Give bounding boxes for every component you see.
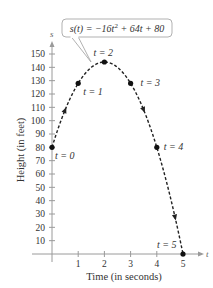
data-point [180,251,185,256]
x-axis-arrow-icon [198,252,204,257]
point-label: t = 0 [55,150,75,161]
point-label: t = 5 [157,239,177,250]
y-tick-label: 50 [36,183,46,193]
height-vs-time-chart: 1234510203040506070809010011012013014015… [0,0,213,288]
direction-arrow-icon [62,106,69,114]
formula-callout: s(t) = −16t2 + 64t + 80 [62,19,172,62]
y-axis-arrow-icon [50,41,55,47]
y-tick-label: 80 [36,143,46,153]
x-axis-variable: t [206,249,209,259]
y-tick-label: 110 [31,103,45,113]
y-tick-label: 10 [36,236,46,246]
x-tick-label: 4 [154,259,159,269]
y-tick-label: 120 [31,89,46,99]
point-label: t = 4 [164,141,184,152]
x-tick-label: 1 [76,259,81,269]
y-tick-label: 130 [31,76,46,86]
point-label: t = 2 [93,47,113,58]
y-tick-label: 40 [36,196,46,206]
y-tick-label: 60 [36,169,46,179]
y-tick-label: 70 [36,156,46,166]
direction-arrow-icon [172,214,178,221]
y-tick-label: 100 [31,116,46,126]
data-point [102,59,107,64]
point-label: t = 3 [141,77,161,88]
callout-pointer [71,37,91,63]
y-tick-label: 150 [31,49,46,59]
y-tick-label: 20 [36,223,46,233]
x-tick-label: 3 [128,259,133,269]
data-point [154,145,159,150]
y-axis-title: Height (in feet) [15,117,27,182]
data-point [76,81,81,86]
direction-arrow-icon [140,106,147,114]
data-point [128,81,133,86]
y-tick-label: 140 [31,63,46,73]
callout-formula: s(t) = −16t2 + 64t + 80 [70,22,164,35]
point-label: t = 1 [83,86,103,97]
y-tick-label: 90 [36,129,46,139]
data-point [49,145,54,150]
x-axis-title: Time (in seconds) [86,271,162,283]
data-points: t = 0t = 1t = 2t = 3t = 4t = 5 [49,47,185,257]
y-tick-label: 30 [36,209,46,219]
x-tick-label: 2 [102,259,107,269]
y-axis-variable: s [50,29,54,39]
x-tick-label: 5 [181,259,186,269]
